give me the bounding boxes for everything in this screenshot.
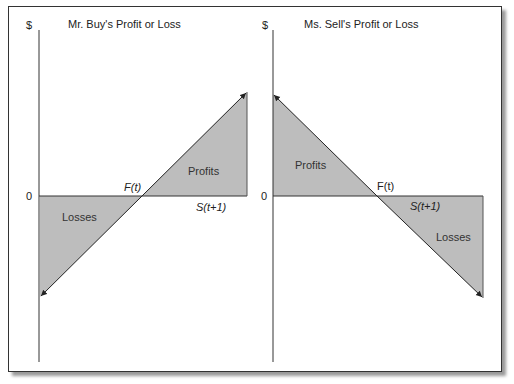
left-chart bbox=[39, 30, 247, 362]
left-ft-label: F(t) bbox=[124, 181, 141, 193]
left-zero-label: 0 bbox=[26, 190, 32, 202]
right-dollar-label: $ bbox=[262, 19, 268, 31]
right-zero-label: 0 bbox=[261, 190, 267, 202]
right-s-label: S(t+1) bbox=[410, 200, 440, 212]
payoff-diagrams bbox=[0, 0, 514, 384]
right-chart-title: Ms. Sell's Profit or Loss bbox=[304, 18, 419, 30]
left-dollar-label: $ bbox=[26, 19, 32, 31]
left-chart-title: Mr. Buy's Profit or Loss bbox=[68, 18, 181, 30]
right-chart bbox=[273, 30, 483, 362]
right-profits-label: Profits bbox=[295, 159, 326, 171]
left-s-label: S(t+1) bbox=[196, 201, 226, 213]
left-losses-label: Losses bbox=[62, 211, 97, 223]
right-ft-label: F(t) bbox=[377, 180, 394, 192]
right-losses-label: Losses bbox=[436, 231, 471, 243]
left-profits-label: Profits bbox=[188, 165, 219, 177]
